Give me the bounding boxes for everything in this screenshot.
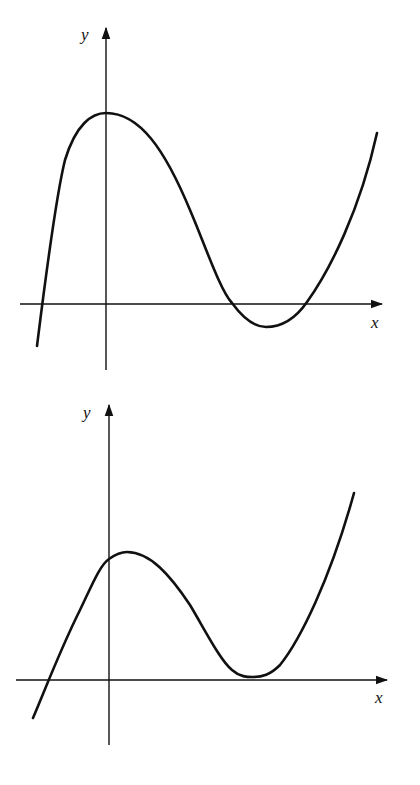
graph-top: y x [20, 25, 382, 370]
y-axis-label: y [81, 403, 91, 422]
function-curve [33, 493, 354, 718]
function-curve [37, 113, 377, 346]
y-axis-label: y [79, 25, 89, 44]
x-axis-label: x [370, 313, 379, 332]
x-axis-label: x [374, 688, 383, 707]
graph-bottom: y x [16, 403, 387, 745]
